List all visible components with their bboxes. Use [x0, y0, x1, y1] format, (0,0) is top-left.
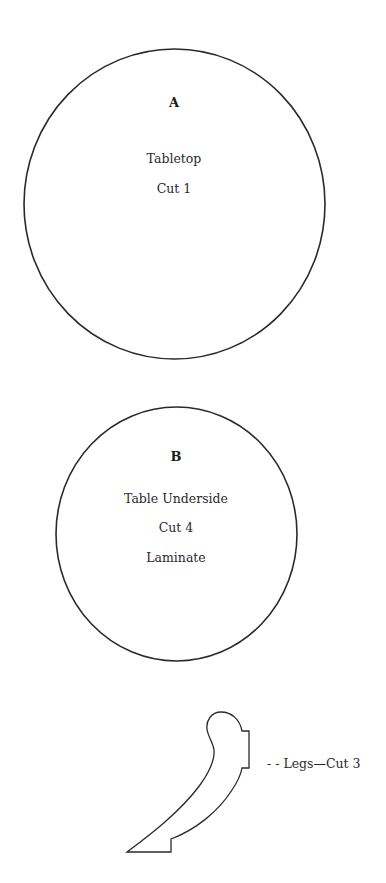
piece-b-cut: Cut 4: [159, 522, 194, 535]
piece-b-material: Laminate: [146, 552, 206, 565]
leg-outline: [127, 712, 249, 852]
piece-a-cut: Cut 1: [157, 183, 192, 196]
pattern-sheet: A Tabletop Cut 1 B Table Underside Cut 4…: [0, 0, 386, 883]
piece-b-letter: B: [171, 450, 182, 463]
piece-b-name: Table Underside: [124, 493, 228, 506]
piece-a-name: Tabletop: [147, 153, 202, 166]
piece-a-letter: A: [169, 96, 179, 109]
pattern-outlines: [0, 0, 386, 883]
legs-label: - - Legs—Cut 3: [267, 758, 361, 771]
